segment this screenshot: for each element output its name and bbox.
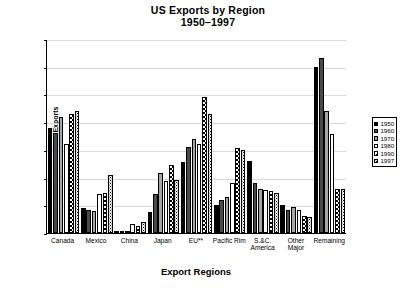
bar <box>69 114 74 233</box>
bar <box>335 189 340 233</box>
bar <box>92 211 97 233</box>
chart-title: US Exports by Region <box>0 4 416 16</box>
bar <box>314 67 319 233</box>
bar <box>125 231 130 233</box>
bar-group <box>280 40 312 233</box>
bar <box>158 173 163 233</box>
bar <box>59 117 64 233</box>
bar <box>274 193 279 233</box>
bar-group <box>180 40 212 233</box>
bar <box>86 210 91 233</box>
bar <box>181 162 186 233</box>
bar <box>280 205 285 233</box>
x-category-label: Mexico <box>79 237 112 259</box>
legend-swatch-icon <box>374 136 378 140</box>
legend-item: 1980 <box>374 142 394 149</box>
legend-item: 1990 <box>374 150 394 157</box>
legend-swatch-icon <box>374 151 378 155</box>
bar <box>75 111 80 233</box>
bar <box>148 212 153 233</box>
legend-swatch-icon <box>374 144 378 148</box>
bar <box>214 205 219 233</box>
x-category-label: China <box>113 237 146 259</box>
bar <box>103 193 108 233</box>
bar <box>247 161 252 233</box>
bar-group <box>47 40 79 233</box>
bar <box>286 210 291 233</box>
legend-label: 1997 <box>380 157 394 164</box>
bar <box>208 114 213 233</box>
plot-area: % of Total Exports 0.05.010.015.020.025.… <box>46 40 346 234</box>
legend-label: 1980 <box>380 142 394 149</box>
x-category-label: S.&C.America <box>246 237 279 259</box>
bar <box>186 147 191 233</box>
bar-group <box>214 40 246 233</box>
bar <box>108 175 113 233</box>
bar-group <box>81 40 113 233</box>
x-category-label: Remaining <box>313 237 346 259</box>
legend-item: 1960 <box>374 127 394 134</box>
bar <box>53 133 58 233</box>
chart-legend: 195019601970198019901997 <box>372 117 397 167</box>
bar <box>253 183 258 233</box>
bar <box>141 222 146 233</box>
bar <box>291 207 296 233</box>
bar <box>341 189 346 233</box>
legend-swatch-icon <box>374 159 378 163</box>
bar-group <box>147 40 179 233</box>
legend-label: 1950 <box>380 120 394 127</box>
bar <box>241 150 246 233</box>
bar <box>302 216 307 233</box>
legend-item: 1970 <box>374 135 394 142</box>
bar <box>235 148 240 233</box>
bar <box>174 180 179 233</box>
x-category-label: Pacific Rim <box>213 237 246 259</box>
x-category-label: EU** <box>179 237 212 259</box>
x-axis-category-labels: CanadaMexicoChinaJapanEU**Pacific RimS.&… <box>46 237 346 259</box>
bar <box>48 128 53 233</box>
legend-label: 1970 <box>380 135 394 142</box>
bar <box>225 197 230 233</box>
bar-groups <box>47 40 346 233</box>
y-tick-mark <box>44 234 47 235</box>
bar <box>81 208 86 233</box>
bar-group <box>114 40 146 233</box>
bar <box>114 231 119 233</box>
x-axis-label: Export Regions <box>46 266 346 277</box>
bar <box>307 217 312 233</box>
bar <box>197 144 202 233</box>
bar <box>169 165 174 233</box>
bar-group <box>247 40 279 233</box>
legend-label: 1960 <box>380 127 394 134</box>
legend-swatch-icon <box>374 122 378 126</box>
bar <box>297 210 302 233</box>
bar <box>258 189 263 233</box>
bar <box>319 58 324 233</box>
bar-group <box>313 40 345 233</box>
bar <box>192 139 197 233</box>
bar <box>64 144 69 233</box>
bar <box>120 231 125 233</box>
bar <box>330 134 335 233</box>
bar <box>164 181 169 233</box>
legend-item: 1950 <box>374 120 394 127</box>
x-category-label: Canada <box>46 237 79 259</box>
bar <box>153 194 158 233</box>
bar <box>202 97 207 233</box>
x-category-label: OtherMajor <box>279 237 312 259</box>
bar <box>269 191 274 233</box>
bar <box>263 190 268 233</box>
legend-label: 1990 <box>380 150 394 157</box>
bar <box>230 183 235 233</box>
chart-container: US Exports by Region 1950–1997 % of Tota… <box>0 0 416 292</box>
chart-title-block: US Exports by Region 1950–1997 <box>0 4 416 28</box>
bar <box>219 200 224 233</box>
legend-swatch-icon <box>374 129 378 133</box>
bar <box>130 224 135 233</box>
bar <box>324 111 329 233</box>
bar <box>97 194 102 233</box>
bar <box>136 226 141 233</box>
legend-item: 1997 <box>374 157 394 164</box>
x-category-label: Japan <box>146 237 179 259</box>
chart-subtitle: 1950–1997 <box>0 16 416 28</box>
